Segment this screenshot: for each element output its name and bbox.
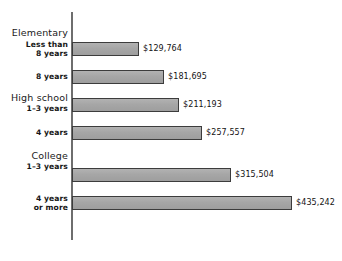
bar-label-line1: 4 years	[36, 194, 68, 203]
bar-label-elementary-less-than-8-years: Less than 8 years	[26, 40, 68, 58]
bar-label-elementary-8-years: 8 years	[36, 72, 68, 81]
bar-label-line1: 8 years	[36, 72, 68, 81]
bar-label-line1: 1–3 years	[27, 104, 68, 113]
bar-label-college-1-3-years: 1–3 years	[27, 162, 68, 171]
value-label-high-school-1-3-years: $211,193	[183, 100, 222, 110]
group-header-college: College	[32, 150, 69, 161]
bar-label-high-school-4-years: 4 years	[36, 128, 68, 137]
value-label-elementary-less-than-8-years: $129,764	[143, 44, 182, 54]
bar-elementary-less-than-8-years	[72, 42, 139, 56]
bar-label-line1: Less than	[26, 40, 68, 49]
bar-high-school-4-years	[72, 126, 202, 140]
value-label-elementary-8-years: $181,695	[168, 72, 207, 82]
bar-label-line1: 4 years	[36, 128, 68, 137]
bar-label-line2: 8 years	[26, 49, 68, 58]
value-label-high-school-4-years: $257,557	[206, 128, 245, 138]
bar-high-school-1-3-years	[72, 98, 179, 112]
value-label-college-1-3-years: $315,504	[235, 170, 274, 180]
bar-chart: Elementary Less than 8 years $129,764 8 …	[0, 0, 342, 261]
bar-college-1-3-years	[72, 168, 231, 182]
group-header-elementary: Elementary	[12, 27, 68, 38]
bar-elementary-8-years	[72, 70, 164, 84]
value-label-college-4-years-or-more: $435,242	[296, 198, 335, 208]
group-header-high-school: High school	[11, 92, 68, 103]
bar-label-line1: 1–3 years	[27, 162, 68, 171]
bar-label-college-4-years-or-more: 4 years or more	[34, 194, 68, 212]
bar-label-high-school-1-3-years: 1–3 years	[27, 104, 68, 113]
bar-college-4-years-or-more	[72, 196, 292, 210]
bar-label-line2: or more	[34, 203, 68, 212]
